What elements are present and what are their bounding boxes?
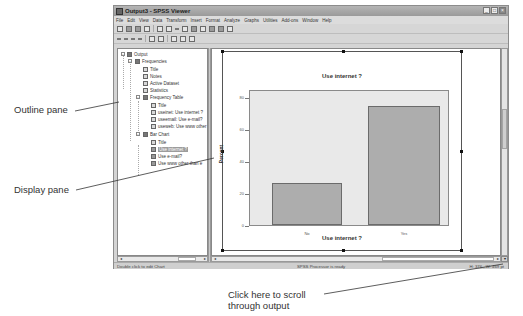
callout-leader-lines [0, 0, 523, 316]
